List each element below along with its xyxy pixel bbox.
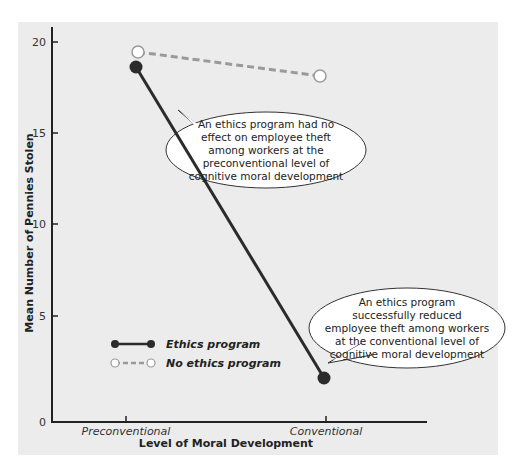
ethics-point-preconventional — [130, 61, 143, 74]
y-axis-label: Mean Number of Pennies Stolen — [23, 133, 36, 332]
callout-line: cognitive moral development — [166, 170, 366, 183]
callout-line: at the conventional level of — [309, 335, 505, 348]
chart-plot — [0, 0, 513, 470]
callout-line: preconventional level of — [166, 157, 366, 170]
y-tick-label: 20 — [26, 36, 46, 49]
ethics-point-conventional — [318, 372, 331, 385]
no-ethics-point-conventional — [314, 70, 326, 82]
legend-label-no-ethics: No ethics program — [166, 357, 281, 370]
legend-swatch-ethics — [111, 340, 155, 348]
x-axis-label: Level of Moral Development — [139, 437, 313, 450]
callout-line: An ethics program — [309, 296, 505, 309]
callout-text-bottom: An ethics program successfully reduced e… — [309, 296, 505, 361]
callout-text-top: An ethics program had no effect on emplo… — [166, 118, 366, 183]
legend-label-ethics: Ethics program — [166, 338, 260, 351]
callout-line: effect on employee theft — [166, 131, 366, 144]
y-tick-label: 0 — [26, 416, 46, 429]
callout-line: An ethics program had no — [166, 118, 366, 131]
no-ethics-point-preconventional — [132, 46, 144, 58]
callout-line: employee theft among workers — [309, 322, 505, 335]
legend-swatch-no-ethics — [111, 359, 155, 367]
callout-line: among workers at the — [166, 144, 366, 157]
callout-line: cognitive moral development — [309, 348, 505, 361]
callout-line: successfully reduced — [309, 309, 505, 322]
no-ethics-line — [138, 52, 320, 76]
